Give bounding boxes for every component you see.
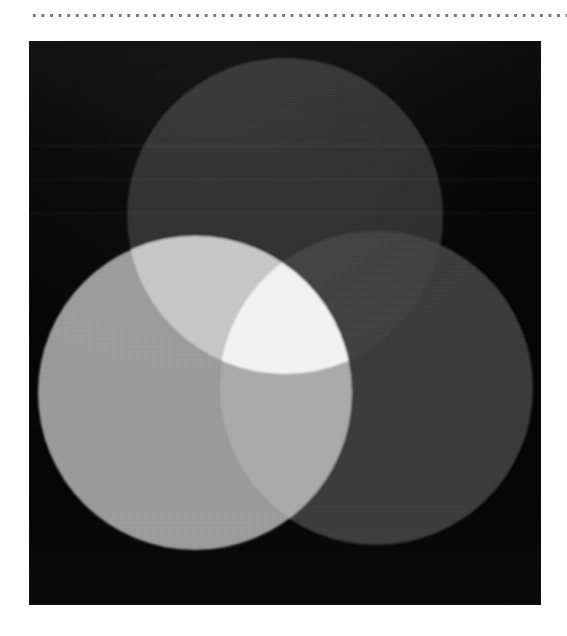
- venn-svg: [30, 42, 540, 604]
- venn-diagram-figure: [30, 42, 540, 604]
- figure-page: [0, 0, 567, 636]
- dotted-separator-rule: [30, 13, 567, 18]
- venn-stage: [30, 42, 540, 604]
